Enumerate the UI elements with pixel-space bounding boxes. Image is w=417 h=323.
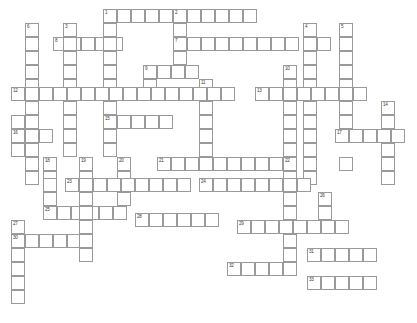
crossword-cell-start-4[interactable]: 4 [303, 23, 317, 37]
crossword-cell[interactable] [377, 129, 391, 143]
crossword-cell[interactable] [251, 220, 265, 234]
crossword-cell[interactable] [303, 143, 317, 157]
crossword-cell[interactable] [185, 157, 199, 171]
crossword-cell[interactable] [177, 178, 191, 192]
crossword-cell[interactable] [39, 129, 53, 143]
crossword-cell[interactable] [303, 37, 317, 51]
crossword-cell[interactable] [199, 143, 213, 157]
crossword-cell[interactable] [39, 234, 53, 248]
crossword-cell[interactable] [185, 65, 199, 79]
crossword-cell[interactable] [25, 234, 39, 248]
crossword-cell-start-17[interactable]: 17 [335, 129, 349, 143]
crossword-cell[interactable] [11, 276, 25, 290]
crossword-cell[interactable] [283, 129, 297, 143]
crossword-cell[interactable] [283, 262, 297, 276]
crossword-cell[interactable] [279, 220, 293, 234]
crossword-cell[interactable] [257, 37, 271, 51]
crossword-cell[interactable] [269, 87, 283, 101]
crossword-cell[interactable] [285, 37, 299, 51]
crossword-cell[interactable] [283, 115, 297, 129]
crossword-cell-start-7[interactable]: 7 [173, 37, 187, 51]
crossword-cell[interactable] [79, 206, 93, 220]
crossword-cell-start-30[interactable]: 30 [11, 234, 25, 248]
crossword-cell[interactable] [321, 248, 335, 262]
crossword-cell[interactable] [229, 9, 243, 23]
crossword-cell[interactable] [199, 157, 213, 171]
crossword-cell[interactable] [283, 143, 297, 157]
crossword-cell[interactable] [293, 220, 307, 234]
crossword-cell[interactable] [63, 51, 77, 65]
crossword-cell-start-31[interactable]: 31 [307, 248, 321, 262]
crossword-cell[interactable] [255, 262, 269, 276]
crossword-cell[interactable] [307, 220, 321, 234]
crossword-cell[interactable] [171, 157, 185, 171]
crossword-cell[interactable] [79, 220, 93, 234]
crossword-cell[interactable] [205, 213, 219, 227]
crossword-cell[interactable] [339, 101, 353, 115]
crossword-cell[interactable] [53, 234, 67, 248]
crossword-cell[interactable] [215, 9, 229, 23]
crossword-cell[interactable] [265, 220, 279, 234]
crossword-cell[interactable] [255, 178, 269, 192]
crossword-cell[interactable] [145, 9, 159, 23]
crossword-cell[interactable] [243, 9, 257, 23]
crossword-cell[interactable] [63, 143, 77, 157]
crossword-cell-start-24[interactable]: 24 [199, 178, 213, 192]
crossword-cell-start-32[interactable]: 32 [227, 262, 241, 276]
crossword-cell[interactable] [149, 213, 163, 227]
crossword-cell[interactable] [25, 115, 39, 129]
crossword-cell[interactable] [207, 87, 221, 101]
crossword-cell[interactable] [25, 101, 39, 115]
crossword-cell[interactable] [213, 178, 227, 192]
crossword-cell[interactable] [11, 248, 25, 262]
crossword-cell[interactable] [117, 9, 131, 23]
crossword-cell[interactable] [321, 276, 335, 290]
crossword-cell[interactable] [339, 157, 353, 171]
crossword-cell[interactable] [335, 276, 349, 290]
crossword-cell[interactable] [283, 101, 297, 115]
crossword-cell[interactable] [269, 157, 283, 171]
crossword-cell[interactable] [117, 115, 131, 129]
crossword-cell-start-25[interactable]: 25 [43, 206, 57, 220]
crossword-cell[interactable] [391, 129, 405, 143]
crossword-cell[interactable] [363, 248, 377, 262]
crossword-cell[interactable] [25, 37, 39, 51]
crossword-cell[interactable] [381, 171, 395, 185]
crossword-cell[interactable] [95, 87, 109, 101]
crossword-cell[interactable] [151, 87, 165, 101]
crossword-cell[interactable] [11, 143, 25, 157]
crossword-cell-start-18[interactable]: 18 [43, 157, 57, 171]
crossword-cell-start-13[interactable]: 13 [255, 87, 269, 101]
crossword-cell[interactable] [25, 129, 39, 143]
crossword-cell-start-28[interactable]: 28 [135, 213, 149, 227]
crossword-cell[interactable] [303, 101, 317, 115]
crossword-cell[interactable] [103, 37, 117, 51]
crossword-cell[interactable] [199, 115, 213, 129]
crossword-cell-start-23[interactable]: 23 [65, 178, 79, 192]
crossword-cell[interactable] [215, 37, 229, 51]
crossword-cell[interactable] [283, 234, 297, 248]
crossword-cell[interactable] [283, 206, 297, 220]
crossword-cell[interactable] [63, 115, 77, 129]
crossword-cell[interactable] [163, 178, 177, 192]
crossword-cell[interactable] [229, 37, 243, 51]
crossword-cell[interactable] [159, 115, 173, 129]
crossword-cell[interactable] [25, 65, 39, 79]
crossword-cell[interactable] [335, 220, 349, 234]
crossword-cell[interactable] [363, 276, 377, 290]
crossword-cell[interactable] [79, 234, 93, 248]
crossword-cell[interactable] [103, 65, 117, 79]
crossword-cell[interactable] [297, 87, 311, 101]
crossword-cell[interactable] [381, 157, 395, 171]
crossword-cell[interactable] [103, 129, 117, 143]
crossword-cell-start-27[interactable]: 27 [11, 220, 25, 234]
crossword-cell[interactable] [201, 9, 215, 23]
crossword-cell[interactable] [325, 87, 339, 101]
crossword-cell[interactable] [283, 192, 297, 206]
crossword-cell[interactable] [283, 87, 297, 101]
crossword-cell[interactable] [297, 178, 311, 192]
crossword-cell[interactable] [171, 65, 185, 79]
crossword-cell[interactable] [11, 290, 25, 304]
crossword-cell[interactable] [243, 37, 257, 51]
crossword-cell[interactable] [173, 51, 187, 65]
